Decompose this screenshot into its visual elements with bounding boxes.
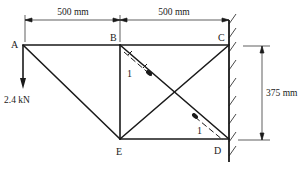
dimension-ab-label: 500 mm bbox=[57, 7, 89, 17]
dimension-cd-label: 375 mm bbox=[266, 88, 298, 98]
gauge-label-1-top: 1 bbox=[127, 68, 132, 79]
node-label-c: C bbox=[218, 32, 225, 43]
dimension-top bbox=[25, 15, 229, 42]
load-label: 2.4 kN bbox=[4, 95, 30, 105]
member-ae bbox=[23, 45, 120, 139]
truss-diagram: 500 mm 500 mm 375 mm 2.4 kN A B C D E 1 … bbox=[0, 0, 306, 169]
wall bbox=[229, 14, 236, 162]
node-label-b: B bbox=[110, 32, 117, 43]
node-label-d: D bbox=[214, 145, 221, 156]
gauge-label-1-bottom: 1 bbox=[197, 125, 202, 136]
load-arrow bbox=[20, 45, 26, 89]
node-label-e: E bbox=[116, 146, 122, 157]
dimension-bc-label: 500 mm bbox=[158, 7, 190, 17]
node-label-a: A bbox=[11, 39, 19, 50]
